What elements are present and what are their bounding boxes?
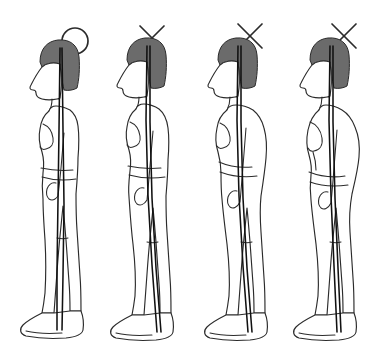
posture-comparison-diagram — [0, 0, 375, 363]
posture-illustration: Standing posture comparison, side view F… — [0, 0, 375, 363]
